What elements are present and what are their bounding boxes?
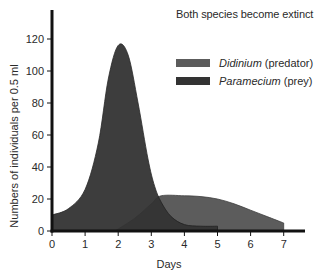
x-tick-label: 4 <box>181 238 187 250</box>
legend-name: Paramecium <box>219 75 281 87</box>
paramecium-swatch <box>176 77 210 85</box>
x-tick-label: 1 <box>82 238 88 250</box>
y-tick-label: 80 <box>32 97 44 109</box>
legend: Didinium (predator) Paramecium (prey) <box>176 54 313 90</box>
y-tick-label: 120 <box>26 33 44 45</box>
extinction-annotation: Both species become extinct <box>176 8 313 20</box>
x-tick-label: 2 <box>115 238 121 250</box>
legend-name: Didinium <box>219 57 262 69</box>
legend-item-paramecium: Paramecium (prey) <box>176 72 313 90</box>
legend-qualifier: (prey) <box>284 75 313 87</box>
y-tick-label: 40 <box>32 161 44 173</box>
y-tick-label: 20 <box>32 193 44 205</box>
y-axis-title: Numbers of individuals per 0.5 ml <box>8 64 20 227</box>
x-tick-label: 7 <box>281 238 287 250</box>
y-tick-label: 100 <box>26 65 44 77</box>
x-tick-label: 5 <box>214 238 220 250</box>
x-tick-label: 3 <box>148 238 154 250</box>
x-axis-title: Days <box>156 258 182 270</box>
population-chart: 01234567020406080100120DaysNumbers of in… <box>0 0 316 276</box>
y-tick-label: 60 <box>32 129 44 141</box>
x-tick-label: 0 <box>49 238 55 250</box>
legend-item-didinium: Didinium (predator) <box>176 54 313 72</box>
x-tick-label: 6 <box>248 238 254 250</box>
legend-qualifier: (predator) <box>265 57 313 69</box>
didinium-swatch <box>176 59 210 67</box>
y-tick-label: 0 <box>38 225 44 237</box>
